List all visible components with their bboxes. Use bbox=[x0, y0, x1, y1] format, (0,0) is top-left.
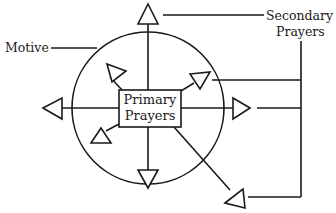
secondary-label-line1: Secondary bbox=[266, 8, 333, 23]
connector-up-right bbox=[181, 83, 194, 91]
primary-label-line2: Prayers bbox=[119, 108, 181, 124]
connector-down-left bbox=[106, 124, 119, 131]
arrow-down-icon bbox=[138, 170, 158, 188]
arrow-up-icon bbox=[138, 4, 158, 24]
primary-label-line1: Primary bbox=[119, 92, 181, 108]
motive-label: Motive bbox=[5, 40, 49, 55]
arrow-up-right-icon bbox=[190, 72, 210, 89]
connector-down-right bbox=[174, 127, 230, 190]
secondary-label-line2: Prayers bbox=[276, 24, 325, 39]
arrow-left-icon bbox=[43, 98, 62, 119]
arrow-down-right-icon bbox=[225, 189, 245, 208]
arrow-up-left-icon bbox=[107, 64, 126, 82]
arrow-right-icon bbox=[233, 98, 250, 119]
